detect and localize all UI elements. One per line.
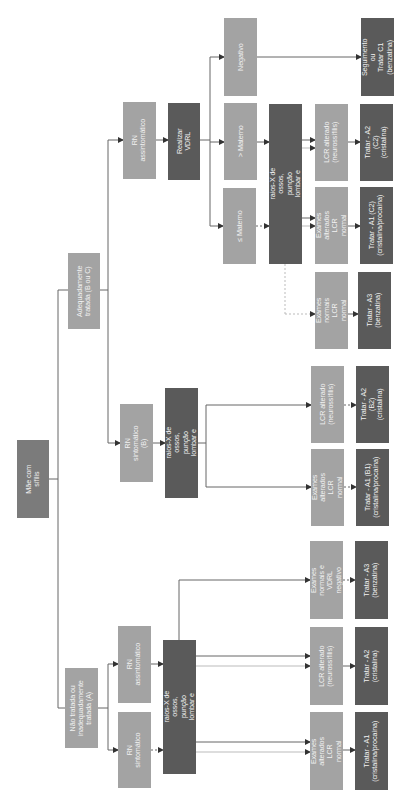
node-c-lcr-altered: LCR alterado (neurossífilis) — [315, 104, 348, 181]
node-b-exams: Realizar raios-X de ossos, punção lombar… — [165, 388, 198, 498]
node-b-symptomatic: RN sintomático (B) — [120, 404, 153, 482]
node-untreated: Não tratada ou inadequadamente tratada (… — [65, 668, 98, 748]
node-mother-with-syphilis: Mãe com sífilis — [17, 440, 49, 518]
node-c-exams: Realizar raios-X de ossos, punção lombar… — [269, 104, 302, 264]
node-c-negative: Negativo — [224, 18, 257, 96]
node-c-follow-up-c1: Seguimento ou Tratar C1 (benzatina) — [361, 18, 394, 96]
node-c-asymptomatic: RN assintomático — [123, 102, 156, 179]
node-a-lcr-altered: LCR alterado (neurossífilis) — [310, 627, 343, 705]
node-a-treat-a3: Tratar - A3 (benzatina) — [355, 541, 388, 619]
node-b-exams-altered: Exames alterados LCR normal — [311, 449, 344, 526]
node-c-treat-a3: Tratar - A3 (benzatina) — [358, 272, 391, 349]
node-a-exams-altered: Exames alterados LCR normal — [310, 712, 343, 790]
node-b-lcr-altered: LCR alterado (neurossífilis) — [311, 366, 344, 443]
node-c-exams-normal: Exames normais LCR normal — [315, 272, 348, 349]
node-c-treat-a1: Tratar - A1 (C2) (cristalina/procaína) — [360, 187, 393, 264]
node-a-treat-a1: Tratar - A1 (cristalina/procaína) — [355, 712, 388, 790]
node-adequately-treated: Adequadamente tratada (B ou C) — [68, 253, 100, 329]
node-a-symptomatic: RN sintomático — [118, 712, 151, 788]
node-c-exams-altered: Exames alterados LCR normal — [315, 187, 348, 264]
node-c-treat-a2: Tratar - A2 (C2) (cristalina) — [360, 104, 393, 181]
node-a-asymptomatic: RN assintomático — [118, 626, 151, 703]
node-a-treat-a2: Tratar - A2 (cristalina) — [355, 627, 388, 705]
node-c-vdrl: Realizar VDRL — [168, 103, 200, 180]
node-c-le-maternal: ≤ Materno — [223, 188, 256, 264]
node-b-treat-a2: Tratar - A2 (B2) (cristalina) — [356, 366, 389, 443]
node-a-exams-normal: Exames normais e VDRL negativo — [310, 541, 343, 619]
node-b-treat-a1: Tratar - A1 (B1) (cristalina/procaína) — [356, 449, 389, 526]
node-c-gt-maternal: > Materno — [224, 103, 257, 180]
node-a-exams: Realizar raios-X de ossos, punção lombar… — [163, 640, 196, 774]
